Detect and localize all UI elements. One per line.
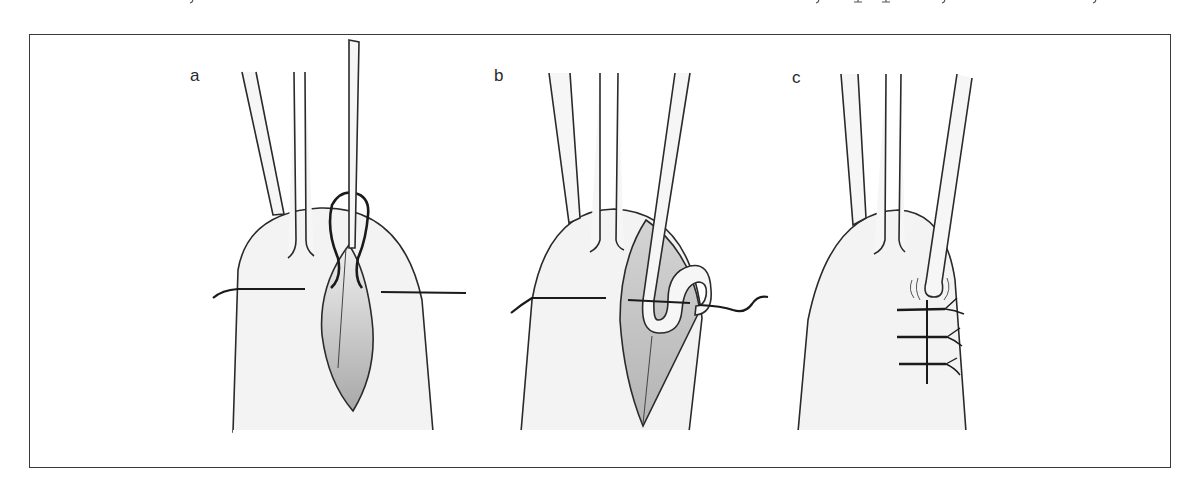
panel-b: b xyxy=(494,66,768,436)
retractor-left-a xyxy=(242,72,284,215)
panel-label-b: b xyxy=(494,66,503,85)
retractor-left-b xyxy=(549,73,580,223)
panel-label-a: a xyxy=(190,66,200,85)
panel-a: a xyxy=(190,40,466,436)
hook-instrument-b xyxy=(643,73,712,333)
panel-label-c: c xyxy=(792,68,801,87)
panel-c: c xyxy=(792,68,972,436)
retractor-left-c xyxy=(841,74,866,225)
surgical-suture-diagram: a b c xyxy=(0,0,1192,491)
